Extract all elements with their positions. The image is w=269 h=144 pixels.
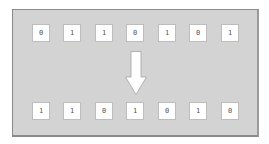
output-bit-1: 1 [63, 102, 81, 120]
input-bit-5: 0 [189, 24, 207, 42]
down-arrow-icon [125, 51, 147, 95]
input-bit-4: 1 [158, 24, 176, 42]
output-bit-2: 0 [95, 102, 113, 120]
input-bit-6: 1 [221, 24, 239, 42]
input-bit-1: 1 [63, 24, 81, 42]
input-bit-0: 0 [32, 24, 50, 42]
output-bit-3: 1 [126, 102, 144, 120]
input-bit-2: 1 [95, 24, 113, 42]
output-bit-5: 1 [189, 102, 207, 120]
input-bit-3: 0 [126, 24, 144, 42]
output-bit-4: 0 [158, 102, 176, 120]
output-bit-row: 1 1 0 1 0 1 0 [32, 102, 242, 121]
output-bit-0: 1 [32, 102, 50, 120]
input-bit-row: 0 1 1 0 1 0 1 [32, 24, 242, 43]
diagram-frame: 0 1 1 0 1 0 1 1 1 0 1 0 1 0 [12, 9, 259, 137]
output-bit-6: 0 [221, 102, 239, 120]
